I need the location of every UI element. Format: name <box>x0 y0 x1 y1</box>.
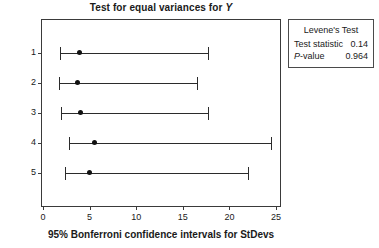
ci-upper-cap <box>248 167 249 180</box>
ci-lower-cap <box>60 47 61 60</box>
plot-area: 123450510152025 <box>42 20 280 206</box>
plot-frame: 123450510152025 <box>41 19 281 207</box>
test-for-equal-variances-chart: Test for equal variances for Y Treatment… <box>0 0 379 248</box>
confidence-interval-row <box>42 76 280 90</box>
x-tick-mark <box>183 206 184 210</box>
p-value-label: P-value <box>294 50 325 62</box>
ci-upper-cap <box>208 47 209 60</box>
ci-lower-cap <box>61 107 62 120</box>
test-statistic-label: Test statistic <box>294 38 343 50</box>
p-value-label-suffix: -value <box>300 51 325 61</box>
confidence-interval-row <box>42 136 280 150</box>
y-tick-label: 3 <box>31 106 36 119</box>
ci-lower-cap <box>65 167 66 180</box>
ci-lower-cap <box>59 77 60 90</box>
x-tick-mark <box>43 206 44 210</box>
ci-upper-cap <box>208 107 209 120</box>
x-tick-label: 25 <box>256 211 296 223</box>
x-axis-title: 95% Bonferroni confidence intervals for … <box>41 229 281 240</box>
x-tick-mark <box>276 206 277 210</box>
ci-line <box>69 143 271 144</box>
ci-line <box>65 173 248 174</box>
x-tick-label: 10 <box>116 211 156 223</box>
ci-estimate-point <box>87 170 92 175</box>
ci-estimate-point <box>77 50 82 55</box>
x-tick-label: 0 <box>23 211 63 223</box>
x-tick-mark <box>90 206 91 210</box>
test-statistic-value: 0.14 <box>350 38 368 50</box>
confidence-interval-row <box>42 166 280 180</box>
y-tick-label: 5 <box>31 166 36 179</box>
ci-upper-cap <box>197 77 198 90</box>
p-value-row: P-value 0.964 <box>294 50 368 62</box>
x-tick-label: 15 <box>163 211 203 223</box>
ci-upper-cap <box>271 137 272 150</box>
confidence-interval-row <box>42 46 280 60</box>
x-tick-mark <box>136 206 137 210</box>
chart-title-text: Test for equal variances for <box>90 2 223 13</box>
ci-line <box>61 113 208 114</box>
legend-title: Levene's Test <box>294 24 368 36</box>
x-tick-mark <box>229 206 230 210</box>
p-value-value: 0.964 <box>345 50 368 62</box>
ci-line <box>60 53 208 54</box>
ci-estimate-point <box>92 140 97 145</box>
ci-estimate-point <box>78 110 83 115</box>
chart-title: Test for equal variances for Y <box>41 2 281 13</box>
y-tick-label: 2 <box>31 76 36 89</box>
ci-estimate-point <box>75 80 80 85</box>
y-tick-label: 1 <box>31 46 36 59</box>
test-statistic-row: Test statistic 0.14 <box>294 38 368 50</box>
levene-test-legend-box: Levene's Test Test statistic 0.14 P-valu… <box>288 19 374 68</box>
chart-title-variable: Y <box>225 2 232 13</box>
ci-lower-cap <box>69 137 70 150</box>
y-tick-label: 4 <box>31 136 36 149</box>
x-tick-label: 20 <box>209 211 249 223</box>
confidence-interval-row <box>42 106 280 120</box>
x-tick-label: 5 <box>70 211 110 223</box>
